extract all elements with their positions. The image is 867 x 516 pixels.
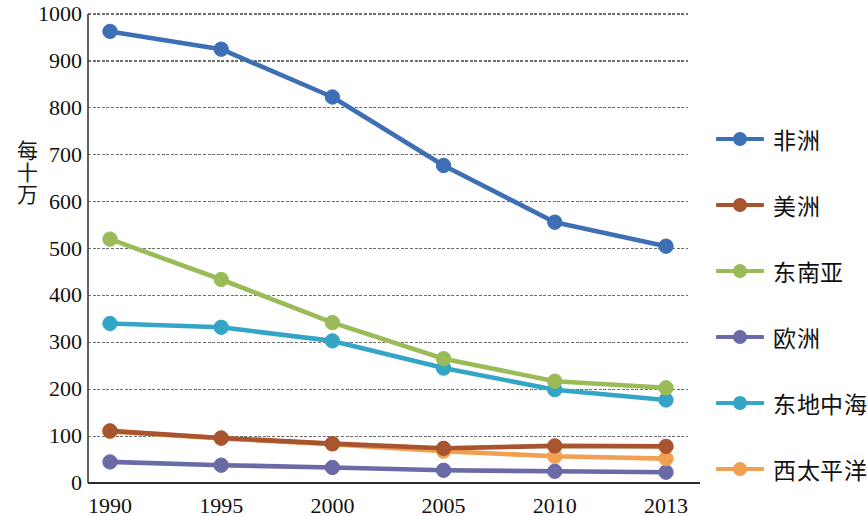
legend-item-5[interactable]: 西太平洋 xyxy=(716,454,867,484)
data-point xyxy=(659,381,673,395)
series-line xyxy=(110,431,666,448)
legend-marker-dot-icon xyxy=(733,132,747,146)
legend-marker-dot-icon xyxy=(733,198,747,212)
data-point xyxy=(548,215,562,229)
legend-swatch-icon xyxy=(716,262,764,280)
legend-swatch-icon xyxy=(716,130,764,148)
data-point xyxy=(548,374,562,388)
data-point xyxy=(325,436,339,450)
x-tick-label: 2013 xyxy=(644,493,688,516)
data-point xyxy=(436,463,450,477)
data-point xyxy=(659,239,673,253)
legend-item-0[interactable]: 非洲 xyxy=(716,124,820,154)
legend-swatch-icon xyxy=(716,196,764,214)
data-point xyxy=(214,458,228,472)
series-4 xyxy=(103,316,673,407)
legend-marker-dot-icon xyxy=(733,330,747,344)
data-point xyxy=(103,316,117,330)
series-line xyxy=(110,239,666,388)
chart-legend: 非洲美洲东南亚欧洲东地中海西太平洋 xyxy=(716,0,856,516)
data-point xyxy=(436,441,450,455)
legend-item-4[interactable]: 东地中海 xyxy=(716,388,867,418)
data-point xyxy=(325,460,339,474)
data-point xyxy=(659,465,673,479)
legend-swatch-icon xyxy=(716,328,764,346)
legend-label: 美洲 xyxy=(773,188,820,222)
legend-marker-dot-icon xyxy=(733,396,747,410)
legend-swatch-icon xyxy=(716,394,764,412)
series-2 xyxy=(103,232,673,395)
series-line xyxy=(110,31,666,246)
data-point xyxy=(436,158,450,172)
data-point xyxy=(103,455,117,469)
x-tick-label: 1995 xyxy=(199,493,243,516)
legend-marker-dot-icon xyxy=(733,264,747,278)
legend-label: 东南亚 xyxy=(773,254,844,288)
data-point xyxy=(325,334,339,348)
data-point xyxy=(214,320,228,334)
legend-item-2[interactable]: 东南亚 xyxy=(716,256,844,286)
data-point xyxy=(436,352,450,366)
legend-swatch-icon xyxy=(716,460,764,478)
legend-label: 非洲 xyxy=(773,122,820,156)
x-tick-label: 2010 xyxy=(533,493,577,516)
data-point xyxy=(325,315,339,329)
legend-item-3[interactable]: 欧洲 xyxy=(716,322,820,352)
data-point xyxy=(548,439,562,453)
series-1 xyxy=(103,424,673,456)
data-point xyxy=(103,24,117,38)
x-tick-label: 2000 xyxy=(310,493,354,516)
series-line xyxy=(110,462,666,472)
series-line xyxy=(110,324,666,401)
legend-label: 西太平洋 xyxy=(773,452,867,486)
data-point xyxy=(214,42,228,56)
legend-marker-dot-icon xyxy=(733,462,747,476)
data-point xyxy=(214,272,228,286)
data-point xyxy=(214,431,228,445)
legend-label: 欧洲 xyxy=(773,320,820,354)
data-point xyxy=(103,424,117,438)
x-tick-label: 1990 xyxy=(88,493,132,516)
data-point xyxy=(548,464,562,478)
data-point xyxy=(103,232,117,246)
series-0 xyxy=(103,24,673,253)
legend-item-1[interactable]: 美洲 xyxy=(716,190,820,220)
x-tick-label: 2005 xyxy=(422,493,466,516)
legend-label: 东地中海 xyxy=(773,386,867,420)
data-point xyxy=(325,90,339,104)
data-point xyxy=(659,439,673,453)
